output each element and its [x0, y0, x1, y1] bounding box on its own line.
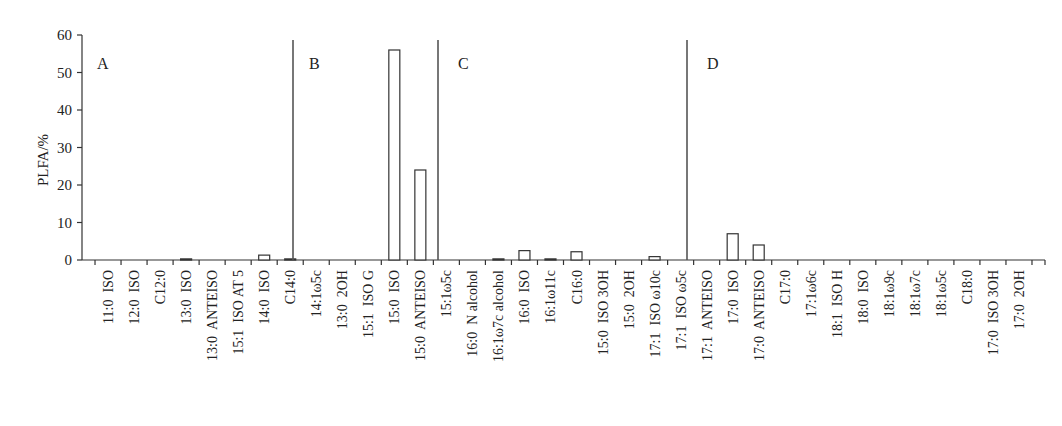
x-category-label: 15:1 ISO G [361, 270, 376, 338]
x-category-label: 18:1ω7c [908, 270, 923, 317]
bar [727, 234, 738, 260]
x-category-label: 16:1ω11c [543, 270, 558, 324]
x-category-label: 16:0 N alcohol [465, 270, 480, 357]
y-tick-label: 10 [57, 215, 72, 231]
bar [519, 251, 530, 260]
section-label-c: C [458, 55, 469, 72]
x-category-label: C17:0 [778, 270, 793, 304]
plfa-bar-chart: 0102030405060 11:0 ISO12:0 ISOC12:013:0 … [0, 0, 1062, 426]
x-category-label: 17:1ω6c [804, 270, 819, 317]
x-category-label: 15:1ω5c [439, 270, 454, 317]
x-category-label: 18:1 ISO H [830, 270, 845, 338]
section-labels: ABCD [97, 55, 719, 72]
x-category-label: 15:0 ANTEISO [413, 270, 428, 361]
bar [285, 259, 296, 260]
bars [181, 50, 765, 260]
x-category-label: 17:0 ISO 3OH [986, 270, 1001, 355]
x-category-label: 17:1 ISO ω5c [674, 270, 689, 350]
x-category-label: 16:0 ISO [517, 270, 532, 324]
x-category-label: 18:1ω9c [882, 270, 897, 317]
y-tick-label: 60 [57, 27, 72, 43]
x-category-label: 13:0 ANTEISO [205, 270, 220, 361]
x-category-label: 15:0 ISO 3OH [596, 270, 611, 355]
x-category-label: C16:0 [570, 270, 585, 304]
x-category-label: 15:0 2OH [622, 270, 637, 329]
y-tick-label: 40 [57, 102, 72, 118]
x-category-label: 13:0 ISO [179, 270, 194, 324]
y-tick-label: 0 [65, 252, 73, 268]
bar [649, 257, 660, 260]
x-category-label: C18:0 [960, 270, 975, 304]
x-category-label: 15:1 ISO AT 5 [231, 270, 246, 355]
bar [493, 259, 504, 260]
bar [389, 50, 400, 260]
y-axis: 0102030405060 [57, 27, 82, 268]
y-axis-title: PLFA/% [35, 134, 51, 186]
section-label-b: B [309, 55, 320, 72]
bar [571, 252, 582, 260]
x-axis: 11:0 ISO12:0 ISOC12:013:0 ISO13:0 ANTEIS… [82, 260, 1045, 362]
y-tick-label: 50 [57, 65, 72, 81]
x-category-label: 18:1ω5c [934, 270, 949, 317]
x-category-label: 17:1 ANTEISO [700, 270, 715, 361]
x-category-label: 14:1ω5c [309, 270, 324, 317]
x-category-label: 17:0 ISO [726, 270, 741, 324]
x-category-label: 15:0 ISO [387, 270, 402, 324]
section-label-d: D [707, 55, 719, 72]
x-category-label: C14:0 [283, 270, 298, 304]
x-category-label: 14:0 ISO [257, 270, 272, 324]
y-tick-label: 20 [57, 177, 72, 193]
x-category-label: 11:0 ISO [101, 270, 116, 324]
x-category-label: 18:0 ISO [856, 270, 871, 324]
x-category-label: 13:0 2OH [335, 270, 350, 329]
x-category-label: 17:0 2OH [1012, 270, 1027, 329]
bar [753, 245, 764, 260]
bar [259, 255, 270, 260]
bar [545, 259, 556, 260]
section-label-a: A [97, 55, 109, 72]
y-tick-label: 30 [57, 140, 72, 156]
x-category-label: 17:0 ANTEISO [752, 270, 767, 361]
x-category-label: 17:1 ISO ω10c [648, 270, 663, 357]
x-category-label: C12:0 [153, 270, 168, 304]
section-dividers [293, 40, 687, 260]
bar [181, 259, 192, 260]
x-category-label: 12:0 ISO [127, 270, 142, 324]
x-category-label: 16:1ω7c alcohol [491, 270, 506, 362]
bar [415, 170, 426, 260]
